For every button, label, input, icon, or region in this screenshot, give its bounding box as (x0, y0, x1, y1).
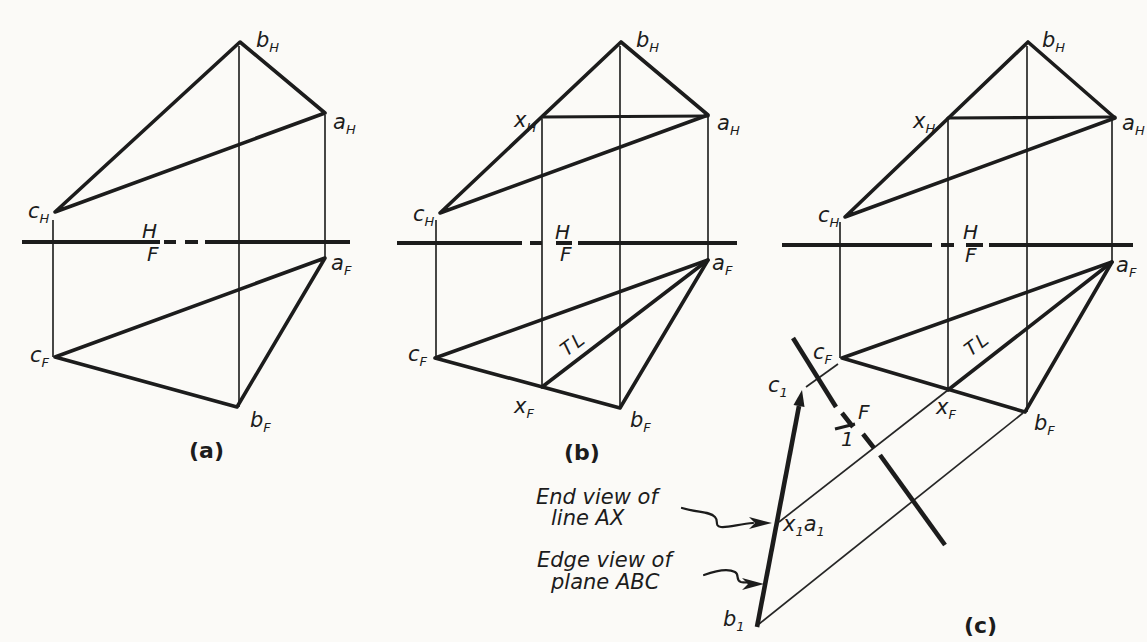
f-view-triangle-a (55, 258, 325, 407)
annotation-edge-view-line2: plane ABC (550, 570, 660, 594)
label-bH-a: bH (256, 28, 279, 55)
label-c1: c1 (768, 373, 788, 400)
leader-line-edge-view (704, 570, 752, 583)
label-fold-1-aux: 1 (841, 427, 854, 451)
figure-a: bH aH cH H F cF aF bF (a) (22, 28, 356, 463)
label-cF-a: cF (30, 343, 50, 370)
annotation-end-view-line2: line AX (551, 506, 625, 530)
label-bH-c: bH (1042, 28, 1065, 55)
leader-line-end-view (682, 508, 753, 527)
h-view-triangle-b (440, 42, 708, 213)
figure-b: bH aH xH cH H F cF aF TL xF bF (b) (397, 28, 740, 465)
label-cH-a: cH (28, 199, 50, 226)
label-bF-c: bF (1034, 411, 1055, 438)
label-bF-a: bF (250, 408, 271, 435)
leader-arrow-edge-view (742, 578, 764, 590)
aux-projector-b (759, 413, 1023, 624)
label-bH-b: bH (636, 28, 659, 55)
label-x1a1: x1a1 (782, 512, 825, 539)
auxiliary-view-c: c1 x1a1 b1 F 1 End view of line AX Edge … (536, 338, 1023, 634)
horizontal-line-xH-aH-c (948, 117, 1115, 118)
diagram-canvas: bH aH cH H F cF aF bF (a) bH aH xH cH H … (0, 0, 1147, 642)
label-bF-b: bF (630, 408, 651, 435)
caption-a: (a) (189, 438, 224, 463)
label-fold-F-a: F (147, 242, 159, 266)
true-length-line-b (542, 260, 708, 387)
label-TL-c: TL (960, 327, 994, 360)
annotation-edge-view-line1: Edge view of (537, 548, 675, 572)
label-cF-b: cF (408, 342, 428, 369)
figure-c: bH aH xH cH H F cF aF TL xF bF (c) (782, 28, 1145, 638)
leader-end-view (682, 508, 772, 529)
true-length-line-c (948, 262, 1112, 390)
label-aH-c: aH (1122, 111, 1145, 138)
label-aF-a: aF (331, 251, 352, 278)
label-cF-c: cF (813, 340, 833, 367)
fold-F1-lower (880, 455, 945, 545)
edge-view-arrowhead (794, 390, 805, 407)
label-aF-c: aF (1116, 253, 1137, 280)
h-view-triangle-c (845, 42, 1115, 217)
label-fold-F-b: F (560, 242, 572, 266)
horizontal-line-xH-aH-b (542, 116, 708, 117)
figure-container: bH aH cH H F cF aF bF (a) bH aH xH cH H … (0, 0, 1147, 642)
label-fold-H-c: H (963, 220, 978, 244)
leader-edge-view (704, 570, 764, 590)
label-aH-b: aH (717, 111, 740, 138)
label-cH-c: cH (818, 203, 840, 230)
label-fold-H-a: H (142, 219, 157, 243)
label-b1: b1 (723, 607, 745, 634)
label-fold-F-c: F (965, 243, 977, 267)
h-view-triangle-a (55, 42, 325, 212)
caption-b: (b) (564, 440, 600, 465)
label-xH-c: xH (912, 109, 935, 136)
projection-lines-a (53, 46, 325, 407)
label-cH-b: cH (413, 202, 435, 229)
label-xF-b: xF (513, 394, 534, 421)
label-xF-c: xF (935, 395, 956, 422)
label-xH-b: xH (513, 108, 536, 135)
label-fold-F-aux: F (858, 400, 870, 424)
label-aH-a: aH (333, 110, 356, 137)
label-aF-b: aF (712, 251, 733, 278)
label-fold-H-b: H (555, 220, 570, 244)
caption-c: (c) (964, 613, 997, 638)
